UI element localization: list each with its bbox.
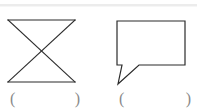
worksheet-page: ( ) ( ) xyxy=(0,0,197,112)
answer-blank-figure-1[interactable]: ( ) xyxy=(4,88,86,112)
answer-blank-open-paren: ( xyxy=(119,88,124,110)
speech-bubble-outline xyxy=(117,21,185,84)
speech-bubble-figure xyxy=(117,21,185,84)
answer-blank-figure-2[interactable]: ( ) xyxy=(112,88,194,112)
answer-blank-close-paren: ) xyxy=(75,88,80,110)
answer-blank-open-paren: ( xyxy=(10,88,15,110)
answer-blank-close-paren: ) xyxy=(186,88,191,110)
bowtie-hourglass-x-figure xyxy=(8,20,75,82)
answer-blanks-row: ( ) ( ) xyxy=(0,88,197,112)
